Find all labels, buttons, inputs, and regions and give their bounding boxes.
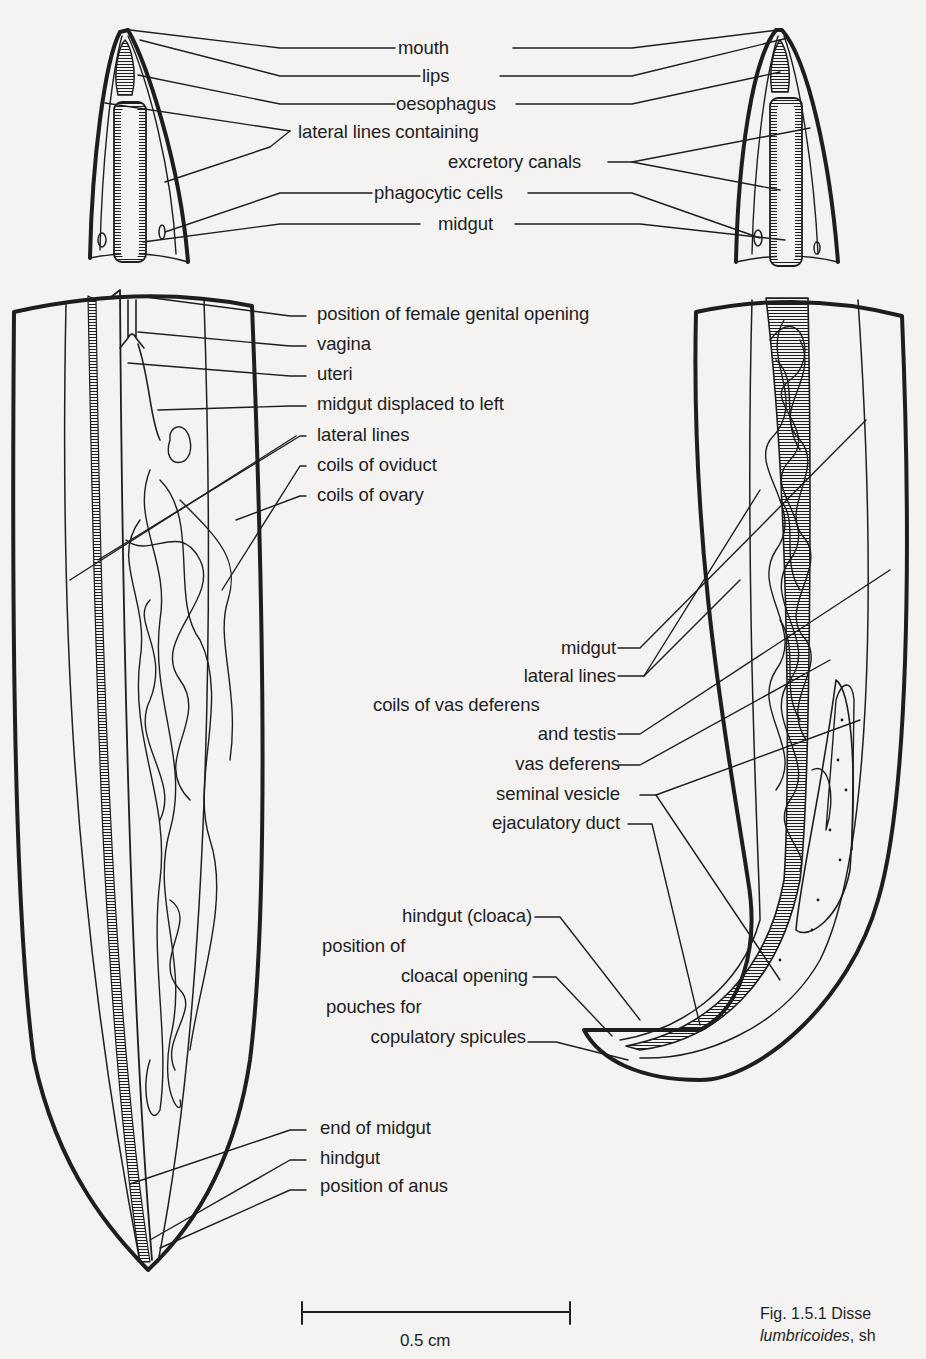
male-body-drawing [584,298,907,1080]
label-cloacal-opening: cloacal opening [401,966,528,986]
caption-continuation: , sh [850,1327,876,1344]
label-coils-of-oviduct: coils of oviduct [317,455,437,475]
label-lateral-lines-female: lateral lines [317,425,409,445]
label-female-genital-opening: position of female genital opening [317,304,589,324]
label-hindgut-cloaca: hindgut (cloaca) [402,906,532,926]
label-vagina: vagina [317,334,371,354]
label-and-testis: and testis [538,724,616,744]
label-midgut-head: midgut [438,214,493,234]
label-seminal-vesicle: seminal vesicle [496,784,620,804]
label-lateral-lines-containing: lateral lines containing [298,122,479,142]
female-body-drawing [13,290,262,1270]
label-mouth: mouth [398,38,449,58]
label-position-of-anus: position of anus [320,1176,448,1196]
label-midgut-male: midgut [561,638,616,658]
label-midgut-displaced: midgut displaced to left [317,394,504,414]
label-lips: lips [422,66,449,86]
label-vas-deferens: vas deferens [515,754,620,774]
label-uteri: uteri [317,364,353,384]
label-end-of-midgut: end of midgut [320,1118,431,1138]
label-excretory-canals: excretory canals [448,152,581,172]
scale-bar-label: 0.5 cm [400,1331,450,1351]
figure-caption-line2: lumbricoides, sh [760,1326,876,1346]
label-coils-of-ovary: coils of ovary [317,485,424,505]
scale-bar [302,1302,570,1324]
label-ejaculatory-duct: ejaculatory duct [492,813,620,833]
dissection-drawing [0,0,926,1359]
label-oesophagus: oesophagus [396,94,496,114]
label-hindgut-female: hindgut [320,1148,380,1168]
label-coils-of-vas-deferens: coils of vas deferens [373,695,540,715]
label-position-of: position of [322,936,405,956]
label-pouches-for: pouches for [326,997,422,1017]
label-copulatory-spicules: copulatory spicules [371,1027,526,1047]
label-lateral-lines-male: lateral lines [524,666,616,686]
label-phagocytic-cells: phagocytic cells [374,183,503,203]
figure-caption-line1: Fig. 1.5.1 Disse [760,1304,871,1324]
male-head-drawing [736,30,838,266]
female-head-drawing [90,30,188,262]
species-name: lumbricoides [760,1327,850,1344]
